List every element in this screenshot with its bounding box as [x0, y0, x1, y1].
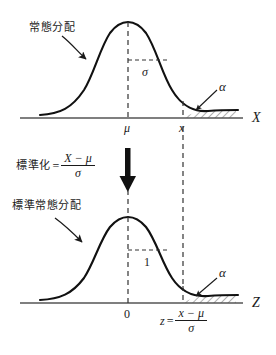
upper-alpha-leader-line: [196, 90, 217, 110]
lower-mean-tick-label: 0: [124, 308, 130, 320]
standardize-fraction: X − μ σ: [61, 152, 94, 179]
z-symbol-label: z: [160, 315, 165, 327]
lower-alpha-label: α: [219, 266, 226, 279]
lower-alpha-leader-line: [196, 278, 217, 296]
lower-axis-name-label: Z: [252, 296, 260, 310]
upper-sd-label: σ: [142, 66, 148, 78]
standardize-denominator: σ: [61, 166, 94, 179]
upper-distribution-label: 常態分配: [29, 22, 75, 33]
z-score-formula: z = x − μ σ: [160, 307, 207, 334]
z-equals-sign: =: [167, 315, 174, 327]
upper-alpha-label: α: [219, 80, 226, 93]
upper-normal-curve: [40, 22, 238, 115]
z-denominator: σ: [175, 321, 206, 334]
standardize-numerator: X − μ: [61, 152, 94, 166]
lower-distribution-label: 標準常態分配: [12, 200, 81, 211]
standardization-thick-arrow: [120, 148, 137, 192]
lower-label-pointer-arrow: [55, 218, 82, 242]
normal-distribution-standardization-figure: 常態分配 σ α X μ x 標準化 = X − μ σ 標準常態分配 1 α …: [0, 0, 276, 355]
lower-sd-label: 1: [144, 256, 150, 268]
upper-value-tick-label: x: [179, 122, 184, 134]
standardization-formula: 標準化 = X − μ σ: [16, 152, 95, 179]
standardize-word-label: 標準化: [16, 160, 51, 171]
z-numerator: x − μ: [175, 307, 206, 321]
standardize-equals-sign: =: [53, 160, 60, 172]
upper-mean-tick-label: μ: [124, 122, 130, 134]
upper-axis-name-label: X: [252, 111, 261, 125]
upper-label-pointer-arrow: [62, 36, 86, 59]
z-fraction: x − μ σ: [175, 307, 206, 334]
